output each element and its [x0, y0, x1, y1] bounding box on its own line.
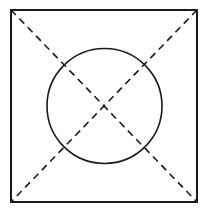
- geometry-diagram: [0, 0, 207, 211]
